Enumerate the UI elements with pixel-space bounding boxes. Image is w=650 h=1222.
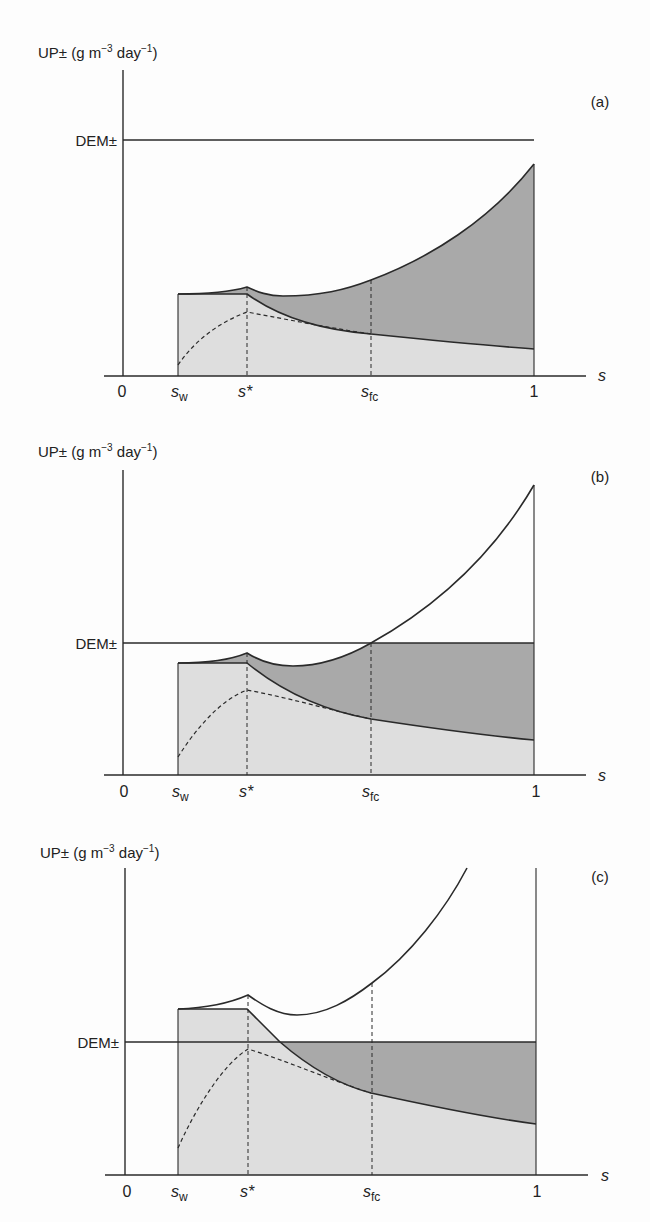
dem-label: DEM± <box>75 132 117 149</box>
y-axis-label: UP± (g m−3 day−1) <box>40 843 159 861</box>
tick-sstar: s* <box>239 783 254 800</box>
x-axis-label: s <box>601 1167 609 1184</box>
tick-0: 0 <box>118 383 127 400</box>
panel-label: (c) <box>591 868 609 885</box>
tick-sstar: s* <box>240 1183 255 1200</box>
figure-canvas: UP± (g m−3 day−1) DEM± (a) s 0 sw s* sfc… <box>0 0 650 1222</box>
panel-a: UP± (g m−3 day−1) DEM± (a) s 0 sw s* sfc… <box>38 43 609 404</box>
panel-label: (a) <box>591 93 609 110</box>
tick-0: 0 <box>120 783 129 800</box>
total-uptake-curve <box>178 868 467 1015</box>
tick-sfc: sfc <box>361 383 378 404</box>
panel-label: (b) <box>591 468 609 485</box>
tick-sstar: s* <box>238 383 253 400</box>
tick-sw: sw <box>172 783 189 804</box>
panel-c: UP± (g m−3 day−1) DEM± (c) s 0 sw s* sfc… <box>40 843 609 1204</box>
dem-label: DEM± <box>75 635 117 652</box>
tick-1: 1 <box>532 783 541 800</box>
y-axis-label: UP± (g m−3 day−1) <box>38 442 157 460</box>
y-axis-label: UP± (g m−3 day−1) <box>38 43 157 61</box>
tick-sw: sw <box>171 383 188 404</box>
dem-label: DEM± <box>77 1034 119 1051</box>
tick-1: 1 <box>533 1183 542 1200</box>
panel-b: UP± (g m−3 day−1) DEM± (b) s 0 sw s* sfc… <box>38 442 609 804</box>
x-axis-label: s <box>598 367 606 384</box>
total-uptake-curve <box>178 485 534 666</box>
x-axis-label: s <box>598 767 606 784</box>
tick-1: 1 <box>530 383 539 400</box>
tick-sfc: sfc <box>363 1183 380 1204</box>
tick-sfc: sfc <box>362 783 379 804</box>
tick-0: 0 <box>123 1183 132 1200</box>
tick-sw: sw <box>171 1183 188 1204</box>
